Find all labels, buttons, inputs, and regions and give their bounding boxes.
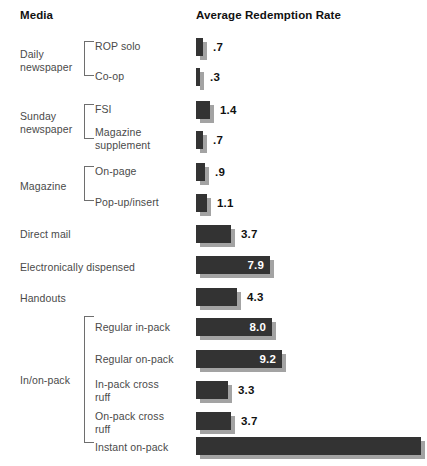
row-rop-solo-bar — [196, 38, 203, 56]
group-magazine-label: Magazine — [20, 180, 66, 193]
row-regular-on-pack-value: 9.2 — [254, 350, 276, 368]
row-in-pack-cross-ruff-bar — [196, 381, 228, 399]
group-inonpack-bracket — [84, 316, 94, 443]
row-instant-on-pack-label: Instant on-pack — [95, 441, 168, 454]
row-pop-up-insert-bar — [196, 194, 207, 212]
row-fsi-bar — [196, 101, 210, 119]
row-instant-on-pack-bar — [196, 437, 421, 455]
row-on-page-bar — [196, 163, 205, 181]
row-on-page-label: On-page — [95, 165, 137, 178]
row-pop-up-insert-label: Pop-up/insert — [95, 196, 159, 209]
row-in-pack-cross-ruff-label: In-pack cross ruff — [95, 378, 159, 403]
row-on-pack-cross-ruff-value: 3.7 — [241, 412, 258, 430]
row-regular-in-pack-label: Regular in-pack — [95, 321, 170, 334]
row-handouts-value: 4.3 — [247, 288, 264, 306]
row-direct-mail-bar — [196, 225, 231, 243]
group-sunday-bracket — [84, 104, 94, 139]
group-inonpack-label: In/on-pack — [20, 374, 70, 387]
row-rop-solo-label: ROP solo — [95, 40, 141, 53]
row-co-op-bar — [196, 68, 200, 86]
row-direct-mail-label: Direct mail — [20, 228, 71, 241]
row-in-pack-cross-ruff-value: 3.3 — [238, 381, 255, 399]
row-on-pack-cross-ruff-bar — [196, 412, 231, 430]
row-rop-solo-value: .7 — [213, 38, 223, 56]
group-daily-bracket — [84, 41, 94, 76]
row-on-pack-cross-ruff-label: On-pack cross ruff — [95, 410, 164, 435]
row-pop-up-insert-value: 1.1 — [217, 194, 234, 212]
row-co-op-bar-shadow — [200, 72, 204, 90]
row-co-op-value: .3 — [210, 68, 220, 86]
row-magazine-supplement-label: Magazine supplement — [95, 126, 150, 151]
row-handouts-label: Handouts — [20, 292, 66, 305]
row-handouts-bar — [196, 288, 237, 306]
row-regular-in-pack-value: 8.0 — [244, 318, 266, 336]
row-magazine-supplement-bar — [196, 131, 203, 149]
row-fsi-label: FSI — [95, 103, 112, 116]
row-electronically-dispensed-label: Electronically dispensed — [20, 261, 135, 274]
column-header-average-redemption-rate: Average Redemption Rate — [196, 9, 341, 21]
row-magazine-supplement-value: .7 — [213, 131, 223, 149]
row-on-page-value: .9 — [215, 163, 225, 181]
column-header-media: Media — [20, 9, 53, 21]
group-magazine-bracket — [84, 166, 94, 201]
row-direct-mail-value: 3.7 — [241, 225, 258, 243]
row-regular-on-pack-label: Regular on-pack — [95, 353, 174, 366]
group-daily-label: Daily newspaper — [20, 48, 72, 73]
row-electronically-dispensed-value: 7.9 — [242, 256, 264, 274]
row-co-op-label: Co-op — [95, 70, 124, 83]
row-fsi-value: 1.4 — [220, 101, 237, 119]
group-sunday-label: Sunday newspaper — [20, 110, 72, 135]
